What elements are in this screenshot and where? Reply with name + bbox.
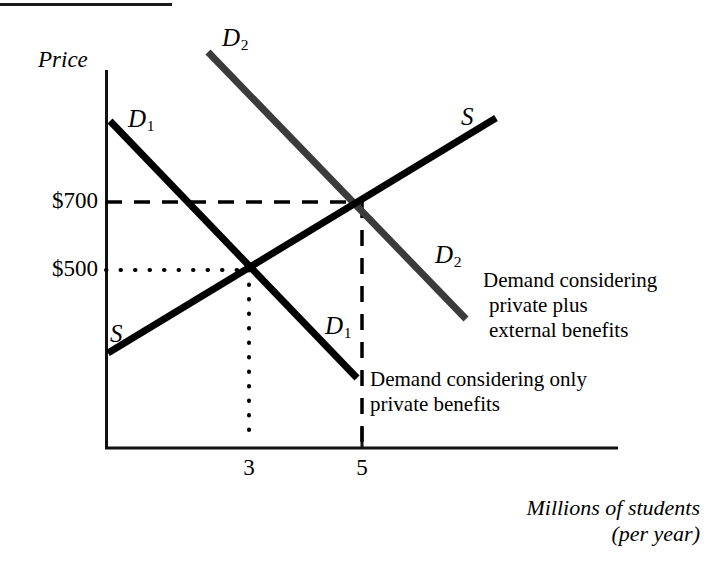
demand2-label-upper-letter: D — [222, 24, 240, 51]
supply-demand-figure: Price $700 $500 3 5 Millions of students… — [0, 0, 724, 565]
demand2-label-upper-sub: 2 — [241, 36, 249, 53]
demand2-label-lower: D2 — [435, 241, 461, 269]
supply-label-lower: S — [110, 320, 123, 348]
demand2-note-line3: external benefits — [489, 318, 628, 343]
demand2-note-line1: Demand considering — [483, 268, 657, 293]
demand1-note-line2: private benefits — [370, 392, 500, 417]
demand2-label-lower-sub: 2 — [454, 253, 462, 270]
demand2-curve — [208, 52, 466, 319]
y-tick-label-500: $500 — [26, 256, 98, 282]
x-tick-label-3: 3 — [231, 455, 267, 481]
demand2-note-line2: private plus — [489, 293, 588, 318]
x-axis-title-line1: Millions of students — [420, 496, 700, 521]
demand1-label-lower-sub: 1 — [344, 324, 352, 341]
supply-label-upper: S — [461, 103, 474, 131]
demand1-label-lower-letter: D — [325, 312, 343, 339]
demand2-label-upper: D2 — [222, 24, 248, 52]
demand1-note-line1: Demand considering only — [370, 367, 587, 392]
demand1-curve — [110, 121, 357, 378]
demand2-label-lower-letter: D — [435, 241, 453, 268]
y-tick-label-700: $700 — [26, 188, 98, 214]
demand1-label-lower: D1 — [325, 312, 351, 340]
x-axis-title-line2: (per year) — [420, 522, 700, 547]
demand1-label-upper: D1 — [128, 105, 154, 133]
demand1-label-upper-sub: 1 — [147, 117, 155, 134]
demand1-label-upper-letter: D — [128, 105, 146, 132]
x-tick-label-5: 5 — [344, 455, 380, 481]
y-axis-title: Price — [38, 47, 88, 73]
